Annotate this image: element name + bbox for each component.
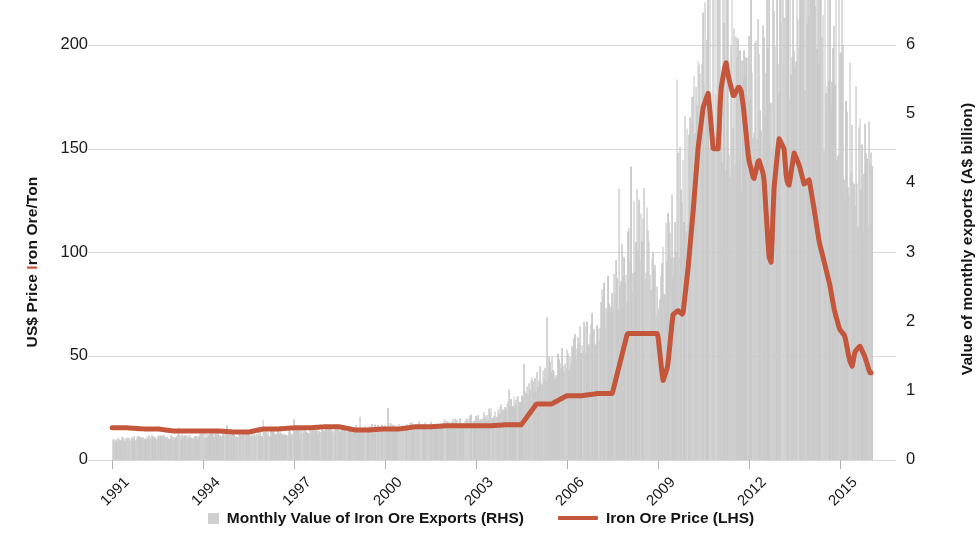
y-axis-left-tick-150: 150: [42, 138, 88, 157]
legend-label-exports: Monthly Value of Iron Ore Exports (RHS): [227, 509, 524, 527]
y-axis-left-title-initial: I: [23, 265, 40, 269]
y-axis-left-title-suffix: ron Ore/Ton: [23, 177, 40, 266]
y-axis-left-tick-100: 100: [42, 242, 88, 261]
y-axis-right-tick-0: 0: [906, 449, 952, 468]
legend-label-price: Iron Ore Price (LHS): [606, 509, 754, 527]
y-axis-right-tick-1: 1: [906, 380, 952, 399]
y-axis-right-tick-3: 3: [906, 242, 952, 261]
y-axis-right-tick-5: 5: [906, 103, 952, 122]
y-axis-left-tick-50: 50: [42, 345, 88, 364]
y-axis-right-tick-4: 4: [906, 172, 952, 191]
legend-bar-swatch-icon: [208, 513, 219, 524]
y-axis-left-title: US$ Price Iron Ore/Ton: [23, 112, 41, 412]
y-axis-left-title-prefix: US$ Price: [23, 270, 40, 348]
y-axis-right-tick-2: 2: [906, 311, 952, 330]
y-axis-right-title: Value of monthly exports (A$ billion): [958, 69, 976, 409]
y-axis-right-tick-6: 6: [906, 34, 952, 53]
y-axis-left-tick-200: 200: [42, 34, 88, 53]
legend-item-exports: Monthly Value of Iron Ore Exports (RHS): [208, 509, 524, 527]
legend-item-price: Iron Ore Price (LHS): [558, 509, 754, 527]
y-axis-left-tick-0: 0: [42, 449, 88, 468]
chart-legend: Monthly Value of Iron Ore Exports (RHS) …: [0, 509, 962, 527]
legend-line-swatch-icon: [558, 516, 598, 520]
